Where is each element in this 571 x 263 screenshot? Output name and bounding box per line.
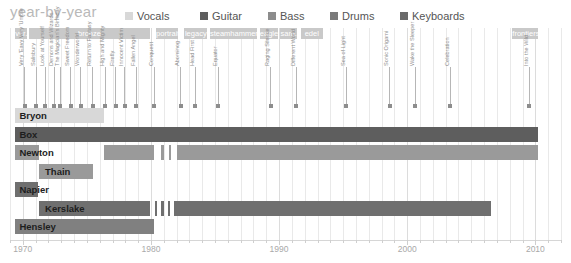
- timeline-row-bryon: Bryon: [10, 108, 561, 123]
- timeline-bar[interactable]: [104, 145, 154, 160]
- member-name-label: Newton: [16, 145, 53, 160]
- legend-label: Bass: [280, 10, 304, 22]
- timeline-bar[interactable]: [177, 145, 538, 160]
- album-stem: [270, 67, 271, 107]
- timeline-bar[interactable]: [168, 201, 171, 216]
- legend-label: Keyboards: [412, 10, 465, 22]
- label-era-row: ver.bronzeportraitlegacysteamhammereagle…: [10, 28, 561, 39]
- timeline-row-box: Box: [10, 127, 561, 142]
- album-stem: [389, 67, 390, 107]
- axis-tick: [330, 240, 331, 243]
- album-title: Firefly: [109, 51, 115, 66]
- era-bar-legacy[interactable]: legacy: [184, 28, 207, 39]
- album-title: Into the Wild: [523, 35, 529, 66]
- album-stem: [450, 67, 451, 107]
- album-title: The Magician's Birthday: [54, 6, 60, 66]
- axis-tick: [394, 240, 395, 243]
- legend-swatch-icon: [330, 12, 338, 20]
- axis-tick: [548, 240, 549, 243]
- member-rows: BryonBoxNewtonThainNapierKerslakeHensley: [10, 108, 561, 240]
- axis-tick: [266, 240, 267, 243]
- axis-tick-label: 1970: [13, 244, 32, 254]
- axis-tick: [471, 240, 472, 243]
- album-title: Very 'Eavy Very 'Umble: [18, 8, 24, 66]
- axis-tick: [420, 240, 421, 243]
- axis-tick: [446, 240, 447, 243]
- axis-tick: [113, 240, 114, 243]
- legend-swatch-icon: [268, 12, 276, 20]
- axis-tick: [382, 240, 383, 243]
- album-title: Fallen Angel: [130, 35, 136, 66]
- axis-tick: [177, 240, 178, 243]
- axis-tick: [523, 240, 524, 243]
- axis-line: [10, 240, 561, 241]
- album-title: Sea of Light: [340, 36, 346, 66]
- album-stem: [92, 67, 93, 107]
- axis-tick: [61, 240, 62, 243]
- album-stem: [70, 67, 71, 107]
- legend-item-drums: Drums: [330, 6, 374, 20]
- era-bar-portrait[interactable]: portrait: [156, 28, 178, 39]
- axis-tick: [138, 240, 139, 243]
- axis-tick: [356, 240, 357, 243]
- album-title: Demons and Wizards: [48, 13, 54, 66]
- member-name-label: Hensley: [16, 219, 55, 234]
- album-stem: [124, 67, 125, 107]
- album-stem: [45, 67, 46, 107]
- axis-tick: [100, 240, 101, 243]
- legend-item-guitar: Guitar: [200, 6, 242, 20]
- timeline-bar[interactable]: [169, 145, 172, 160]
- album-stem: [54, 67, 55, 107]
- timeline-bar[interactable]: [161, 145, 164, 160]
- timeline-row-thain: Thain: [10, 164, 561, 179]
- x-axis: 19701980199020002010: [10, 240, 561, 260]
- album-title: Different World: [290, 29, 296, 66]
- axis-tick: [484, 240, 485, 243]
- album-stem: [195, 67, 196, 107]
- axis-tick: [369, 240, 370, 243]
- axis-tick: [241, 240, 242, 243]
- axis-tick: [561, 240, 562, 243]
- album-stem: [154, 67, 155, 107]
- legend-label: Vocals: [137, 10, 169, 22]
- timeline-bar[interactable]: [174, 201, 491, 216]
- album-stem: [218, 67, 219, 107]
- album-title: Head First: [189, 40, 195, 66]
- album-title: Abominog: [174, 41, 180, 66]
- axis-tick: [318, 240, 319, 243]
- album-title: Wonderworld: [74, 33, 80, 66]
- axis-tick: [292, 240, 293, 243]
- member-name-label: Napier: [16, 182, 49, 197]
- album-stem: [136, 67, 137, 107]
- legend-item-keyboards: Keyboards: [400, 6, 465, 20]
- timeline-bar[interactable]: [161, 201, 164, 216]
- album-title: High and Mighty: [99, 26, 105, 66]
- album-title: Return to Fantasy: [86, 22, 92, 66]
- axis-tick: [48, 240, 49, 243]
- era-bar-steamhammer[interactable]: steamhammer: [210, 28, 257, 39]
- album-title: Conquest: [148, 42, 154, 66]
- axis-tick: [202, 240, 203, 243]
- album-title: Sonic Origami: [383, 31, 389, 66]
- album-stem: [529, 67, 530, 107]
- album-stem: [346, 67, 347, 107]
- axis-tick-label: 2010: [526, 244, 545, 254]
- timeline-bar[interactable]: [155, 201, 158, 216]
- member-name-label: Bryon: [16, 108, 46, 123]
- legend-item-bass: Bass: [268, 6, 304, 20]
- album-title: Sweet Freedom: [64, 27, 70, 66]
- album-markers: Very 'Eavy Very 'UmbleSalisburyLook at Y…: [10, 41, 561, 107]
- timeline-row-hensley: Hensley: [10, 219, 561, 234]
- album-title: Equator: [212, 46, 218, 66]
- axis-tick: [343, 240, 344, 243]
- axis-tick: [458, 240, 459, 243]
- axis-tick-label: 1990: [270, 244, 289, 254]
- album-title: Look at Yourself: [39, 26, 45, 66]
- axis-tick: [253, 240, 254, 243]
- timeline-bar[interactable]: [15, 127, 538, 142]
- axis-tick: [305, 240, 306, 243]
- axis-tick: [10, 240, 11, 243]
- album-stem: [80, 67, 81, 107]
- timeline-row-napier: Napier: [10, 182, 561, 197]
- era-bar-edel[interactable]: edel: [301, 28, 323, 39]
